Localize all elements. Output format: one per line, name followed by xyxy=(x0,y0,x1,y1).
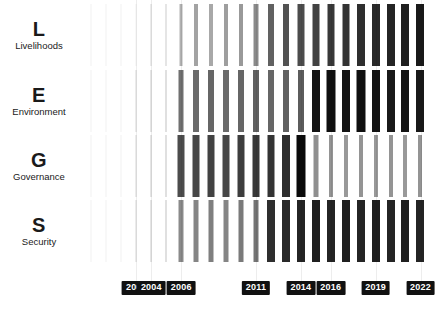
bar-ink xyxy=(193,70,199,132)
bar xyxy=(308,70,323,132)
chart-row-security: S Security xyxy=(0,200,432,262)
bar xyxy=(114,70,129,132)
row-name-governance: Governance xyxy=(13,172,65,182)
bar xyxy=(263,70,278,132)
row-label-security: S Security xyxy=(0,200,78,262)
bar-ink xyxy=(121,200,122,262)
bar-ink xyxy=(106,70,107,132)
bar xyxy=(219,200,234,262)
bar xyxy=(99,4,114,66)
bar-ink xyxy=(253,200,258,262)
bar xyxy=(398,70,413,132)
year-tick-2011[interactable]: 2011 xyxy=(242,281,270,295)
bar xyxy=(308,135,323,197)
year-tick-2014[interactable]: 2014 xyxy=(286,281,315,295)
bar-ink xyxy=(389,135,393,197)
bar-ink xyxy=(372,200,380,262)
bar xyxy=(308,4,323,66)
bar xyxy=(234,135,249,197)
year-tick-2022[interactable]: 2022 xyxy=(406,281,435,295)
bar xyxy=(174,200,189,262)
bar xyxy=(278,200,293,262)
bar-ink xyxy=(135,135,137,197)
bar xyxy=(293,200,308,262)
bar-ink xyxy=(150,70,152,132)
bar xyxy=(129,70,144,132)
bar-ink xyxy=(327,4,334,66)
bar-ink xyxy=(180,4,183,66)
bar xyxy=(248,135,263,197)
bar-ink xyxy=(239,4,243,66)
bar-ink xyxy=(342,200,350,262)
bar-ink xyxy=(209,200,214,262)
bar-ink xyxy=(165,70,167,132)
bar-ink xyxy=(297,4,304,66)
bar-ink xyxy=(401,70,409,132)
row-letter-environment: E xyxy=(32,85,46,105)
bar xyxy=(278,135,293,197)
bar-ink xyxy=(356,70,365,132)
bar xyxy=(84,4,99,66)
bar-ink xyxy=(312,4,319,66)
bar-ink xyxy=(344,135,348,197)
bar xyxy=(323,70,338,132)
bar xyxy=(353,4,368,66)
bar xyxy=(174,135,189,197)
bar-ink xyxy=(416,200,424,262)
bar-ink xyxy=(327,200,335,262)
bar-ink xyxy=(150,200,152,262)
chart-row-governance: G Governance xyxy=(0,135,432,197)
bar-ink xyxy=(372,4,380,66)
bar xyxy=(413,200,428,262)
bar xyxy=(99,135,114,197)
bar-ink xyxy=(387,70,395,132)
bar-ink xyxy=(387,200,395,262)
row-label-environment: E Environment xyxy=(0,70,78,132)
bar xyxy=(204,200,219,262)
bar xyxy=(398,4,413,66)
year-axis: 20032004200620112014201620192022 xyxy=(0,278,432,309)
bar-ink xyxy=(106,4,107,66)
bar xyxy=(114,200,129,262)
bar xyxy=(189,200,204,262)
bar-ink xyxy=(268,70,274,132)
bar xyxy=(234,4,249,66)
year-tick-2019[interactable]: 2019 xyxy=(361,281,390,295)
bar xyxy=(248,200,263,262)
bar-ink xyxy=(268,4,274,66)
bar-ink xyxy=(267,135,274,197)
bar-ink xyxy=(372,70,380,132)
year-tick-2016[interactable]: 2016 xyxy=(316,281,345,295)
bar-ink xyxy=(312,200,320,262)
bar xyxy=(323,135,338,197)
bar xyxy=(234,200,249,262)
bar xyxy=(323,200,338,262)
bar xyxy=(144,200,159,262)
bars-environment xyxy=(84,70,428,132)
bar xyxy=(323,4,338,66)
bar-ink xyxy=(179,200,184,262)
year-tick-2006[interactable]: 2006 xyxy=(167,281,196,295)
bar xyxy=(129,4,144,66)
bar xyxy=(114,4,129,66)
bars-governance xyxy=(84,135,428,197)
row-letter-livelihoods: L xyxy=(33,19,46,39)
year-tick-2004[interactable]: 2004 xyxy=(137,281,166,295)
bar-ink xyxy=(282,200,290,262)
bar xyxy=(189,135,204,197)
bar-ink xyxy=(357,4,365,66)
bar-ink xyxy=(329,135,333,197)
bar xyxy=(293,4,308,66)
bar xyxy=(204,135,219,197)
bar xyxy=(174,4,189,66)
bar-ink xyxy=(224,200,229,262)
bar xyxy=(219,4,234,66)
bar xyxy=(368,4,383,66)
bar-ink xyxy=(359,135,363,197)
bar xyxy=(84,70,99,132)
bar xyxy=(413,70,428,132)
bar-ink xyxy=(283,70,289,132)
bar-ink xyxy=(283,4,289,66)
bar xyxy=(308,200,323,262)
bar xyxy=(413,4,428,66)
